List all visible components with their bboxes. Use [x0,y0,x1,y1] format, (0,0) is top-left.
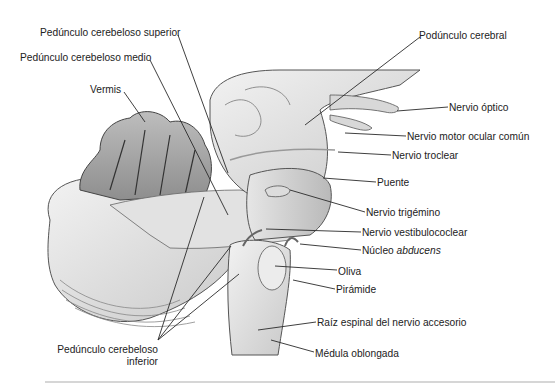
pons-shape [247,168,332,240]
label-text: Puente [377,177,409,188]
label-piramide: Pirámide [336,284,376,296]
label-text: Médula oblongada [315,348,399,359]
label-text: Vermis [90,84,121,95]
label-text: Nervio troclear [392,150,458,161]
label-text: Podúnculo cerebral [419,30,507,41]
label-pedunculo-cerebeloso-superior: Pedúnculo cerebeloso superior [40,27,180,39]
optic-nerve-shape [330,95,398,130]
leader-line [300,244,361,250]
label-vermis: Vermis [90,84,121,96]
label-text: Núcleo [362,245,397,256]
leader-line [323,178,376,182]
leader-line [345,133,406,136]
bottom-divider [45,381,555,383]
leader-line [338,152,391,155]
label-text: Nervio vestibulococlear [362,227,467,238]
leader-line [293,280,335,289]
label-text: Nervio óptico [449,102,508,113]
label-oliva: Oliva [338,266,361,278]
label-text: Pedúnculo cerebeloso superior [40,27,180,38]
label-nervio-optico: Nervio óptico [449,102,508,114]
label-text: Pedúnculo cerebeloso medio [20,52,151,63]
label-pedunculo-cerebeloso-medio: Pedúnculo cerebeloso medio [20,52,151,64]
label-puente: Puente [377,177,409,189]
label-text: Nervio trigémino [366,207,440,218]
vermis-folia [80,112,212,200]
label-nervio-vestibulococlear: Nervio vestibulococlear [362,227,467,239]
label-text: Nervio motor ocular común [407,131,529,142]
label-text: Pedúnculo cerebeloso [57,344,158,355]
label-pedunculo-cerebeloso-inferior: Pedúnculo cerebelosoinferior [57,344,158,368]
label-text-line2: inferior [127,356,158,367]
olive-shape [258,246,286,290]
label-text: Raíz espinal del nervio accesorio [317,317,467,328]
label-text: Pirámide [336,284,376,295]
label-medula-oblongada: Médula oblongada [315,348,399,360]
label-pedunculo-cerebral: Podúnculo cerebral [419,30,507,42]
label-text: Oliva [338,266,361,277]
label-nucleo-abducens: Núcleo abducens [362,245,441,257]
label-nervio-troclear: Nervio troclear [392,150,458,162]
label-nervio-trigemino: Nervio trigémino [366,207,440,219]
label-nervio-motor-ocular-comun: Nervio motor ocular común [407,131,529,143]
label-text-italic: abducens [397,245,441,256]
trigeminal-stub [265,186,290,197]
leader-line [397,107,448,111]
label-raiz-espinal-nervio-accesorio: Raíz espinal del nervio accesorio [317,317,467,329]
